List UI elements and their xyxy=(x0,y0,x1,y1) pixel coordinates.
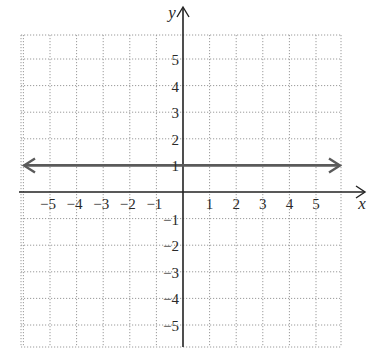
y-tick-label: −4 xyxy=(163,291,179,307)
tick-labels: −5−4−3−2−112345−5−4−3−2−112345xy xyxy=(40,3,366,334)
x-tick-label: 3 xyxy=(259,196,267,212)
y-tick-label: 3 xyxy=(172,105,180,121)
x-tick-label: 5 xyxy=(312,196,320,212)
y-tick-label: −1 xyxy=(163,212,179,228)
y-tick-label: 5 xyxy=(172,52,180,68)
x-tick-label: −4 xyxy=(67,196,83,212)
x-tick-label: −3 xyxy=(93,196,109,212)
y-tick-label: −3 xyxy=(163,265,179,281)
x-tick-label: 4 xyxy=(286,196,294,212)
y-tick-label: −2 xyxy=(163,238,179,254)
plotted-line xyxy=(24,158,340,172)
x-tick-label: 1 xyxy=(206,196,214,212)
x-tick-label: 2 xyxy=(232,196,240,212)
grid xyxy=(21,35,341,347)
x-tick-label: −1 xyxy=(146,196,162,212)
x-tick-label: −2 xyxy=(120,196,136,212)
y-axis-label: y xyxy=(166,3,176,22)
x-tick-label: −5 xyxy=(40,196,56,212)
y-tick-label: 1 xyxy=(172,158,180,174)
y-tick-label: −5 xyxy=(163,318,179,334)
axes xyxy=(19,7,365,347)
x-axis-label: x xyxy=(357,194,366,213)
coordinate-plane: −5−4−3−2−112345−5−4−3−2−112345xy xyxy=(0,0,368,354)
y-tick-label: 2 xyxy=(172,132,180,148)
y-tick-label: 4 xyxy=(172,79,180,95)
